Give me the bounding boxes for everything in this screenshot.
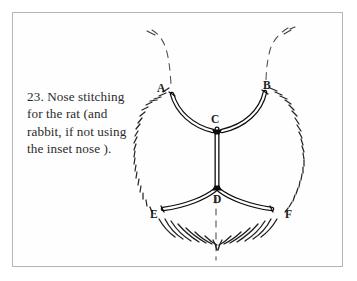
rat-nose-stitching-diagram (0, 0, 357, 281)
point-label-c: C (211, 114, 219, 126)
fur-left-cheek (134, 88, 169, 212)
point-label-f: F (285, 209, 292, 221)
fur-right-cheek (270, 88, 304, 212)
stitch-cord-d-e (163, 190, 215, 209)
point-label-b: B (263, 80, 271, 92)
point-label-a: A (157, 83, 165, 95)
point-label-e: E (150, 209, 158, 221)
stitch-cord-b-c (222, 92, 265, 131)
head-outline-stray-ticks (147, 27, 295, 35)
fur-bottom-chin (159, 219, 277, 250)
point-label-d: D (213, 194, 221, 206)
stitch-cord-a-c (172, 94, 213, 131)
stitch-cord-d-f (219, 190, 272, 209)
figure-page: 23. Nose stitching for the rat (and rabb… (0, 0, 357, 281)
